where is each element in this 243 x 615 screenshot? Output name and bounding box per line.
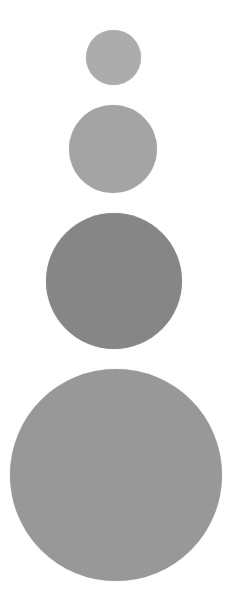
circle-medium-dark <box>46 213 182 349</box>
circle-largest <box>10 369 222 581</box>
circles-canvas <box>0 0 243 615</box>
circle-small <box>69 105 157 193</box>
circle-smallest <box>86 30 141 85</box>
